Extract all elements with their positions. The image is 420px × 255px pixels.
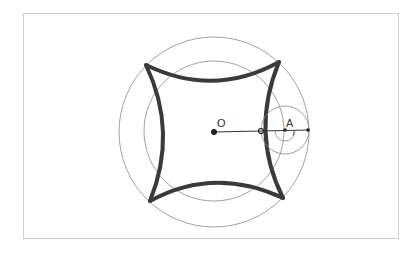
angle-arc — [275, 131, 295, 141]
astroid-diagram: O A — [0, 0, 420, 255]
segment-end-point[interactable] — [306, 128, 310, 132]
label-o: O — [217, 117, 226, 129]
label-a: A — [286, 117, 294, 129]
center-point-o[interactable] — [211, 129, 217, 135]
